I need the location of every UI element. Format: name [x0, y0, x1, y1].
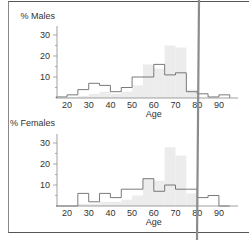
vertical-divider-line	[197, 0, 199, 240]
shaded-bar	[121, 92, 132, 98]
histogram-figure: 3020102030405060708090Age% Males 3020102…	[0, 0, 249, 240]
shaded-bar	[121, 200, 132, 206]
x-tick-label: 20	[62, 100, 72, 110]
y-tick-label: 30	[40, 30, 50, 40]
shaded-bar	[100, 202, 111, 206]
x-tick-label: 30	[84, 100, 94, 110]
y-tick-label: 20	[40, 159, 50, 169]
shaded-bar	[110, 202, 121, 206]
shaded-bar	[154, 181, 165, 206]
shaded-bar	[176, 156, 187, 206]
x-tick-label: 40	[105, 100, 115, 110]
shaded-bar	[110, 94, 121, 98]
shaded-bar	[132, 85, 143, 98]
x-axis-label: Age	[146, 109, 162, 119]
shaded-bar	[89, 94, 100, 98]
x-tick-label: 20	[62, 208, 72, 218]
y-tick-label: 30	[40, 138, 50, 148]
x-tick-label: 30	[84, 208, 94, 218]
shaded-bar	[154, 69, 165, 98]
females-panel: 3020102030405060708090Age% Females	[10, 118, 238, 227]
shaded-bar	[165, 46, 176, 99]
x-axis-label: Age	[146, 217, 162, 227]
shaded-bar	[186, 90, 197, 98]
x-tick-label: 90	[214, 100, 224, 110]
x-tick-label: 50	[127, 208, 137, 218]
shaded-bar	[186, 193, 197, 206]
x-tick-label: 70	[170, 208, 180, 218]
y-tick-label: 10	[40, 72, 50, 82]
shaded-bar	[143, 179, 154, 206]
x-tick-label: 40	[105, 208, 115, 218]
x-tick-label: 90	[214, 208, 224, 218]
panel-title: % Females	[10, 118, 56, 128]
x-tick-label: 70	[170, 100, 180, 110]
shaded-bar	[100, 92, 111, 98]
x-tick-label: 50	[127, 100, 137, 110]
panel-title: % Males	[20, 11, 55, 21]
shaded-bar	[132, 196, 143, 207]
y-tick-label: 10	[40, 180, 50, 190]
males-panel: 3020102030405060708090Age% Males	[20, 11, 238, 119]
y-tick-label: 20	[40, 51, 50, 61]
shaded-bar	[143, 64, 154, 98]
shaded-bar	[165, 147, 176, 206]
